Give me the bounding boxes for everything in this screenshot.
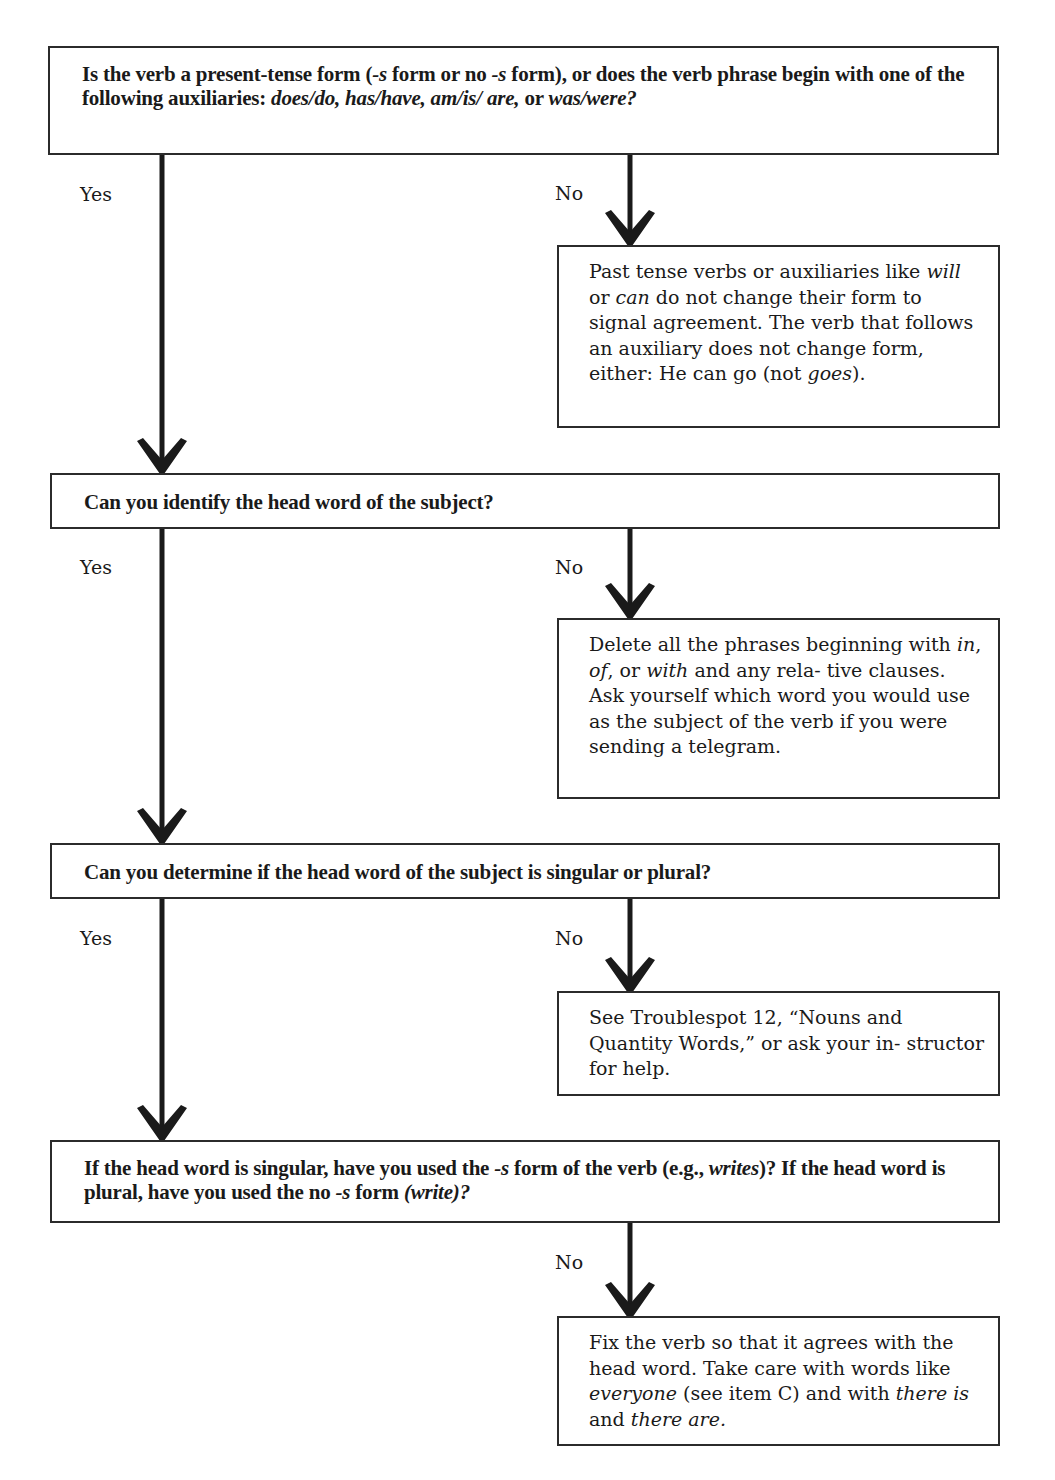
decision-box-head-word: Can you identify the head word of the su… bbox=[50, 473, 1000, 529]
note-text: Delete all the phrases beginning with in… bbox=[589, 632, 984, 760]
decision-text: Can you identify the head word of the su… bbox=[84, 490, 978, 514]
decision-text: Is the verb a present-tense form (-s for… bbox=[82, 62, 977, 110]
yes-label: Yes bbox=[80, 556, 112, 578]
decision-box-verb-form: If the head word is singular, have you u… bbox=[50, 1140, 1000, 1223]
decision-box-singular-plural: Can you determine if the head word of th… bbox=[50, 843, 1000, 899]
no-label: No bbox=[555, 182, 583, 204]
note-box-past-tense: Past tense verbs or auxiliaries like wil… bbox=[557, 245, 1000, 428]
decision-box-present-tense: Is the verb a present-tense form (-s for… bbox=[48, 46, 999, 155]
no-label: No bbox=[555, 927, 583, 949]
decision-text: If the head word is singular, have you u… bbox=[84, 1156, 978, 1204]
yes-label: Yes bbox=[80, 183, 112, 205]
note-text: Fix the verb so that it agrees with the … bbox=[589, 1330, 984, 1432]
yes-label: Yes bbox=[80, 927, 112, 949]
note-box-delete-phrases: Delete all the phrases beginning with in… bbox=[557, 618, 1000, 799]
note-box-troublespot: See Troublespot 12, “Nouns and Quantity … bbox=[557, 991, 1000, 1096]
note-box-fix-verb: Fix the verb so that it agrees with the … bbox=[557, 1316, 1000, 1446]
decision-text: Can you determine if the head word of th… bbox=[84, 860, 978, 884]
note-text: Past tense verbs or auxiliaries like wil… bbox=[589, 259, 984, 387]
note-text: See Troublespot 12, “Nouns and Quantity … bbox=[589, 1005, 984, 1082]
no-label: No bbox=[555, 1251, 583, 1273]
no-label: No bbox=[555, 556, 583, 578]
